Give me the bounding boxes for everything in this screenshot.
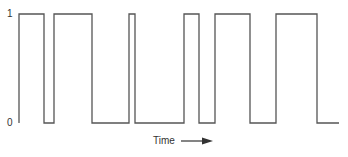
square-waveform [19,14,339,123]
y-label-low: 0 [7,118,13,128]
x-axis-label-time: Time [153,136,175,146]
digital-waveform-diagram: 1 0 Time [0,0,348,157]
y-label-high: 1 [7,9,13,19]
waveform-canvas [0,0,348,157]
time-arrow-icon [181,138,213,145]
